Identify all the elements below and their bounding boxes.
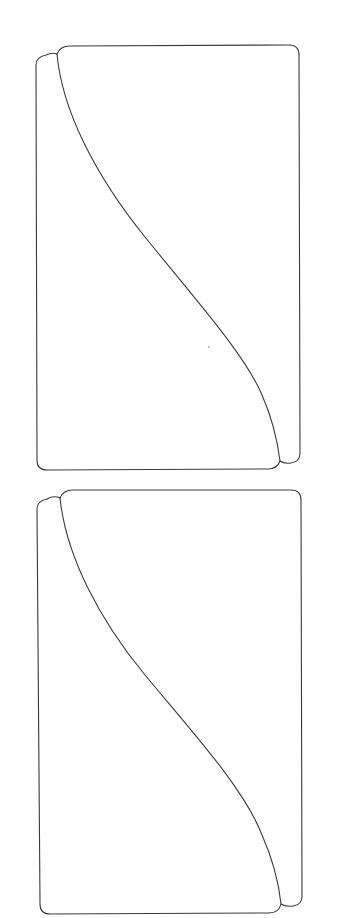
figure-1-speck	[208, 346, 209, 347]
figure-1	[36, 45, 300, 470]
figure-1-divider-curve	[57, 54, 280, 461]
drawing-canvas	[0, 0, 348, 918]
figure-2	[37, 490, 302, 914]
figure-1-outline	[36, 45, 300, 470]
figure-2-divider-curve	[60, 498, 281, 904]
figure-2-outline	[37, 490, 302, 914]
